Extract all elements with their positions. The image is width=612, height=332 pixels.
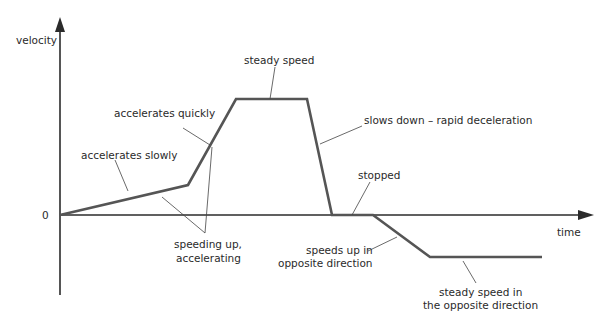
label-speeding-up-line2: accelerating (176, 252, 241, 264)
x-axis-arrow-icon (578, 210, 594, 220)
leader-speeding-up-2 (205, 147, 212, 233)
label-slows-down: slows down – rapid deceleration (364, 114, 532, 126)
leader-accelerates-quickly (183, 128, 210, 145)
label-accelerates-slowly: accelerates slowly (81, 149, 177, 161)
label-speeding-up-line1: speeding up, (174, 238, 242, 250)
label-speeds-up-opposite-line2: opposite direction (278, 257, 373, 269)
label-accelerates-quickly: accelerates quickly (114, 107, 215, 119)
x-axis-label: time (557, 226, 581, 238)
label-steady-speed-opposite-line2: the opposite direction (423, 299, 538, 311)
origin-label: 0 (42, 209, 49, 221)
leader-steady-speed-opposite (463, 261, 476, 283)
leader-slows-down (320, 126, 362, 144)
label-stopped: stopped (358, 169, 400, 181)
leader-stopped (352, 182, 370, 215)
leader-accelerates-slowly (115, 160, 128, 191)
y-axis-arrow-icon (55, 17, 65, 32)
label-steady-speed-opposite-line1: steady speed in (439, 286, 522, 298)
label-speeds-up-opposite-line1: speeds up in (306, 244, 373, 256)
leader-steady-speed (270, 67, 275, 99)
y-axis-label: velocity (16, 34, 57, 46)
velocity-time-graph: velocity 0 time accelerates slowly accel… (0, 0, 612, 332)
label-steady-speed: steady speed (244, 54, 314, 66)
